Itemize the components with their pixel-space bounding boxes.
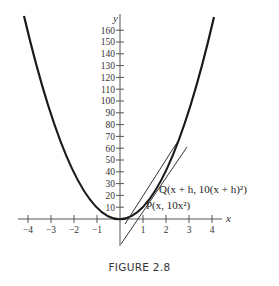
svg-text:160: 160 (101, 26, 116, 36)
svg-text:20: 20 (106, 191, 116, 201)
svg-text:120: 120 (101, 73, 116, 83)
svg-text:80: 80 (106, 120, 116, 130)
svg-text:110: 110 (101, 85, 115, 95)
svg-text:150: 150 (101, 37, 116, 47)
svg-text:−1: −1 (92, 225, 102, 235)
svg-text:2: 2 (164, 225, 169, 235)
svg-text:90: 90 (106, 108, 116, 118)
svg-text:−2: −2 (69, 225, 79, 235)
svg-text:1: 1 (141, 225, 146, 235)
y-axis-label: y (112, 12, 118, 24)
svg-text:3: 3 (187, 225, 192, 235)
svg-text:4: 4 (210, 225, 215, 235)
svg-text:−4: −4 (23, 225, 33, 235)
x-tick-labels: −4 −3 −2 −1 1 2 3 4 (23, 225, 215, 235)
point-Q-label: Q(x + h, 10(x + h)²) (159, 183, 247, 196)
svg-text:50: 50 (106, 155, 116, 165)
x-axis-label: x (225, 212, 231, 224)
figure-caption: FIGURE 2.8 (0, 261, 279, 273)
svg-text:130: 130 (101, 61, 116, 71)
svg-text:10: 10 (106, 203, 116, 213)
svg-text:140: 140 (101, 49, 116, 59)
svg-text:70: 70 (106, 132, 116, 142)
svg-text:100: 100 (101, 96, 116, 106)
svg-text:30: 30 (106, 179, 116, 189)
svg-text:40: 40 (106, 167, 116, 177)
tangent-line (121, 147, 187, 244)
y-tick-labels: 10 20 30 40 50 60 70 80 90 100 110 120 1… (101, 26, 116, 213)
svg-text:60: 60 (106, 144, 116, 154)
point-P-label: P(x, 10x²) (146, 199, 191, 212)
svg-text:−3: −3 (46, 225, 56, 235)
figure-plot: −4 −3 −2 −1 1 2 3 4 x 10 20 30 40 50 60 … (0, 0, 279, 286)
